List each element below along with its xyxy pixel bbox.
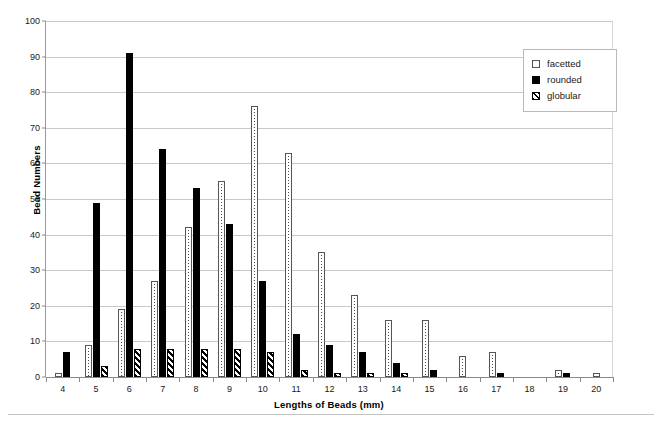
bar-facetted-9[interactable] (218, 181, 225, 377)
y-tick-label-0: 0 (35, 373, 46, 382)
bar-rounded-7[interactable] (159, 149, 166, 377)
legend-label-rounded: rounded (547, 75, 582, 85)
y-tick-label-10: 10 (30, 337, 46, 346)
bar-facetted-19[interactable] (555, 370, 562, 377)
bar-rounded-17[interactable] (497, 373, 504, 377)
x-tick-label-12: 12 (324, 385, 334, 394)
bar-rounded-10[interactable] (259, 281, 266, 377)
y-tick-label-100: 100 (25, 17, 46, 26)
category-band-10 (246, 21, 279, 377)
x-tick-mark-20 (580, 377, 581, 382)
bar-facetted-5[interactable] (85, 345, 92, 377)
x-tick-label-17: 17 (491, 385, 501, 394)
bar-rounded-15[interactable] (430, 370, 437, 377)
x-tick-label-18: 18 (525, 385, 535, 394)
x-tick-mark-15 (413, 377, 414, 382)
legend-swatch-facetted-icon (532, 60, 540, 68)
bar-rounded-8[interactable] (193, 188, 200, 377)
bar-rounded-19[interactable] (563, 373, 570, 377)
x-tick-label-11: 11 (291, 385, 300, 394)
x-tick-mark-13 (346, 377, 347, 382)
legend-item-globular[interactable]: globular (532, 88, 609, 104)
bar-globular-6[interactable] (134, 349, 141, 377)
bar-rounded-11[interactable] (293, 334, 300, 377)
x-tick-mark-16 (446, 377, 447, 382)
bar-rounded-9[interactable] (226, 224, 233, 377)
bar-facetted-11[interactable] (285, 153, 292, 377)
bar-facetted-16[interactable] (459, 356, 466, 377)
category-band-17 (480, 21, 513, 377)
bar-facetted-14[interactable] (385, 320, 392, 377)
x-tick-mark-9 (213, 377, 214, 382)
bar-facetted-20[interactable] (593, 373, 600, 377)
y-tick-label-50: 50 (30, 195, 46, 204)
x-tick-label-7: 7 (160, 385, 165, 394)
x-tick-label-5: 5 (94, 385, 99, 394)
category-band-8 (179, 21, 212, 377)
bar-rounded-4[interactable] (63, 352, 70, 377)
x-tick-mark-14 (380, 377, 381, 382)
category-band-14 (380, 21, 413, 377)
legend-item-facetted[interactable]: facetted (532, 56, 609, 72)
category-band-5 (79, 21, 112, 377)
bar-globular-10[interactable] (267, 352, 274, 377)
category-band-16 (446, 21, 479, 377)
legend-label-facetted: facetted (547, 59, 581, 69)
bar-rounded-13[interactable] (359, 352, 366, 377)
x-tick-label-16: 16 (458, 385, 468, 394)
bar-facetted-15[interactable] (422, 320, 429, 377)
bar-globular-13[interactable] (367, 373, 374, 377)
x-tick-mark-7 (146, 377, 147, 382)
legend-item-rounded[interactable]: rounded (532, 72, 609, 88)
category-band-6 (113, 21, 146, 377)
bar-facetted-10[interactable] (251, 106, 258, 377)
bar-facetted-4[interactable] (55, 373, 62, 377)
x-tick-mark-10 (246, 377, 247, 382)
x-tick-label-19: 19 (558, 385, 568, 394)
bar-facetted-8[interactable] (185, 227, 192, 377)
y-tick-label-90: 90 (30, 52, 46, 61)
bar-globular-9[interactable] (234, 349, 241, 377)
bar-rounded-12[interactable] (326, 345, 333, 377)
x-tick-mark-5 (79, 377, 80, 382)
x-axis-title: Lengths of Beads (mm) (45, 399, 613, 410)
legend-swatch-rounded-icon (532, 76, 540, 84)
bar-rounded-14[interactable] (393, 363, 400, 377)
category-band-12 (313, 21, 346, 377)
x-tick-mark-4 (46, 377, 47, 382)
bar-chart: Bead Numbers 010203040506070809010045678… (0, 0, 662, 423)
bar-globular-11[interactable] (301, 370, 308, 377)
bar-facetted-12[interactable] (318, 252, 325, 377)
x-tick-label-13: 13 (358, 385, 368, 394)
bar-rounded-5[interactable] (93, 203, 100, 377)
category-band-4 (46, 21, 79, 377)
bar-facetted-13[interactable] (351, 295, 358, 377)
x-tick-label-15: 15 (425, 385, 435, 394)
bar-rounded-6[interactable] (126, 53, 133, 377)
x-tick-mark-18 (513, 377, 514, 382)
bar-globular-8[interactable] (201, 349, 208, 377)
legend-swatch-globular-icon (532, 92, 540, 100)
bar-globular-12[interactable] (334, 373, 341, 377)
y-tick-label-30: 30 (30, 266, 46, 275)
x-tick-label-20: 20 (591, 385, 601, 394)
bar-facetted-6[interactable] (118, 309, 125, 377)
y-tick-label-80: 80 (30, 88, 46, 97)
category-band-13 (346, 21, 379, 377)
bar-globular-14[interactable] (401, 373, 408, 377)
x-tick-label-6: 6 (127, 385, 132, 394)
bar-globular-5[interactable] (101, 366, 108, 377)
legend-label-globular: globular (547, 91, 581, 101)
bar-globular-7[interactable] (167, 349, 174, 377)
bar-facetted-17[interactable] (489, 352, 496, 377)
x-tick-label-10: 10 (258, 385, 268, 394)
gridline-0 (46, 377, 613, 378)
x-tick-label-14: 14 (391, 385, 401, 394)
x-tick-mark-6 (113, 377, 114, 382)
x-tick-mark-19 (546, 377, 547, 382)
category-band-15 (413, 21, 446, 377)
x-tick-label-9: 9 (227, 385, 232, 394)
bar-facetted-7[interactable] (151, 281, 158, 377)
y-tick-label-70: 70 (30, 123, 46, 132)
y-tick-label-60: 60 (30, 159, 46, 168)
